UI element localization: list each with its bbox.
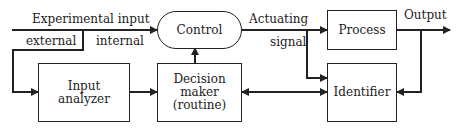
identifier-label: Identifier — [334, 86, 391, 99]
process-label: Process — [338, 24, 385, 37]
decision-maker-block: Decision maker (routine) — [157, 63, 242, 122]
process-block: Process — [327, 10, 397, 50]
input-analyzer-block: Input analyzer — [38, 63, 130, 122]
input-analyzer-label-1: Input — [68, 80, 101, 93]
signal-label: signal — [270, 36, 306, 49]
control-block: Control — [157, 11, 242, 49]
internal-label: internal — [96, 35, 144, 48]
actuating-label: Actuating — [249, 13, 308, 26]
experimental-input-label: Experimental input — [32, 13, 150, 26]
input-analyzer-label-2: analyzer — [58, 93, 110, 106]
output-label: Output — [404, 9, 447, 22]
external-label: external — [26, 35, 76, 48]
identifier-block: Identifier — [327, 63, 397, 122]
control-label: Control — [177, 24, 223, 37]
decision-maker-label-3: (routine) — [173, 99, 227, 112]
